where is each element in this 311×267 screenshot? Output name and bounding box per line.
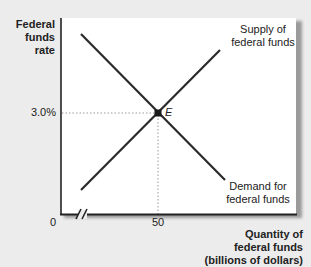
- supply-label-line: federal funds: [218, 36, 308, 49]
- equilibrium-label: E: [165, 106, 172, 119]
- demand-label-line: federal funds: [218, 193, 298, 206]
- x-tick-label-zero: 0: [50, 216, 56, 229]
- y-axis-title-line: funds: [0, 31, 55, 44]
- y-axis-title-line: Federal: [0, 18, 55, 31]
- x-axis-title-line: (billions of dollars): [163, 254, 303, 267]
- supply-curve-label: Supply of federal funds: [218, 23, 308, 49]
- equilibrium-point: [155, 110, 162, 117]
- y-tick-label: 3.0%: [16, 106, 56, 119]
- x-axis-title-line: federal funds: [163, 241, 303, 254]
- supply-label-line: Supply of: [218, 23, 308, 36]
- demand-curve: [81, 34, 225, 180]
- demand-curve-label: Demand for federal funds: [218, 180, 298, 206]
- y-axis-title-line: rate: [0, 44, 55, 57]
- x-axis-title: Quantity of federal funds (billions of d…: [163, 228, 303, 267]
- y-axis-title: Federal funds rate: [0, 18, 55, 57]
- x-axis-title-line: Quantity of: [163, 228, 303, 241]
- supply-curve: [81, 50, 220, 190]
- demand-label-line: Demand for: [218, 180, 298, 193]
